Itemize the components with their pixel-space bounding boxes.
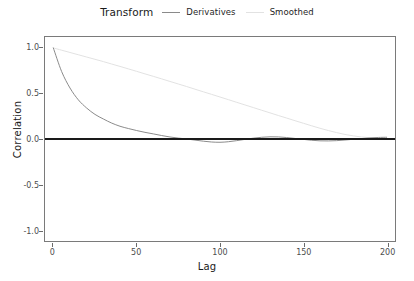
- correlation-lag-chart: Transform Derivatives Smoothed 1.00.50.0…: [0, 0, 414, 281]
- y-tick-label: 1.0: [26, 43, 39, 52]
- y-tick-label: 0.5: [26, 89, 39, 98]
- x-tick-label: 0: [50, 248, 55, 257]
- plot-panel: [44, 36, 396, 242]
- x-tick-mark: [136, 243, 137, 247]
- y-tick-mark: [39, 139, 43, 140]
- x-tick-label: 150: [296, 248, 311, 257]
- legend-title: Transform: [100, 6, 153, 18]
- y-tick-mark: [39, 231, 43, 232]
- y-tick-mark: [39, 93, 43, 94]
- series-line-smoothed: [53, 48, 386, 139]
- y-tick-label: -1.0: [23, 226, 39, 235]
- plot-area: [45, 37, 395, 241]
- y-axis-title: Correlation: [12, 75, 23, 185]
- x-tick-label: 200: [380, 248, 395, 257]
- x-tick-mark: [220, 243, 221, 247]
- legend-label-derivatives: Derivatives: [186, 7, 235, 17]
- y-tick-mark: [39, 47, 43, 48]
- legend-label-smoothed: Smoothed: [270, 7, 314, 17]
- x-tick-mark: [52, 243, 53, 247]
- legend-item-smoothed[interactable]: Smoothed: [246, 7, 314, 17]
- legend-item-derivatives[interactable]: Derivatives: [162, 7, 235, 17]
- line-swatch-icon: [246, 7, 264, 17]
- line-swatch-icon: [162, 7, 180, 17]
- x-tick-label: 100: [212, 248, 227, 257]
- x-tick-label: 50: [131, 248, 141, 257]
- y-tick-label: -0.5: [23, 180, 39, 189]
- x-axis-title: Lag: [0, 261, 414, 272]
- x-axis-tick-labels: 050100150200: [0, 248, 414, 260]
- y-tick-label: 0.0: [26, 135, 39, 144]
- x-tick-mark: [304, 243, 305, 247]
- x-tick-mark: [388, 243, 389, 247]
- chart-legend: Transform Derivatives Smoothed: [0, 5, 414, 19]
- y-tick-mark: [39, 185, 43, 186]
